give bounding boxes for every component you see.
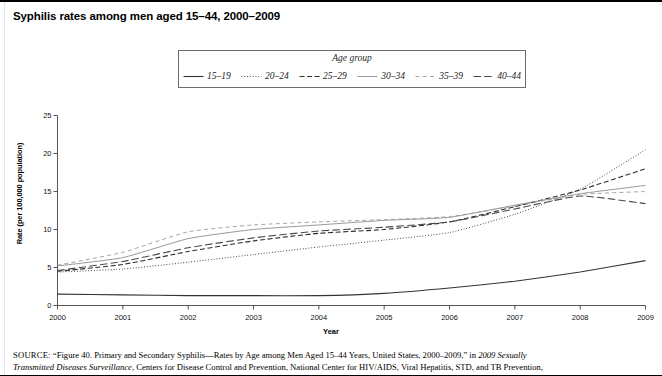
x-tick-label: 2004 — [299, 313, 339, 322]
series-line-40-44 — [58, 196, 646, 270]
legend-item-label: 15–19 — [207, 71, 231, 81]
legend-line-swatch — [299, 73, 320, 80]
source-prefix: SOURCE: — [13, 350, 51, 360]
x-tick-label: 2006 — [430, 313, 470, 322]
legend-line-swatch — [415, 73, 436, 80]
x-tick-label: 2003 — [234, 313, 274, 322]
source-line2-b: , Centers for Disease Control and Preven… — [132, 362, 543, 372]
x-axis-ticks — [58, 306, 646, 310]
legend-title: Age group — [179, 53, 525, 63]
y-tick-label: 20 — [30, 149, 52, 158]
legend-item-15-19: 15–19 — [183, 71, 231, 81]
legend-item-label: 20–24 — [265, 71, 289, 81]
x-tick-label: 2009 — [626, 313, 662, 322]
legend-line-swatch — [473, 73, 494, 80]
x-tick-label: 2008 — [560, 313, 600, 322]
chart-svg — [0, 97, 662, 342]
chart-legend: Age group 15–1920–2425–2930–3435–3940–44 — [178, 50, 526, 88]
series-line-35-39 — [58, 192, 646, 266]
y-tick-label: 10 — [30, 225, 52, 234]
page-title: Syphilis rates among men aged 15–44, 200… — [13, 10, 280, 22]
legend-line-swatch — [357, 73, 378, 80]
data-series-group — [58, 150, 646, 296]
legend-item-35-39: 35–39 — [415, 71, 463, 81]
x-tick-label: 2005 — [364, 313, 404, 322]
y-axis-ticks — [54, 116, 58, 306]
x-tick-label: 2001 — [103, 313, 143, 322]
legend-line-swatch — [183, 73, 204, 80]
y-tick-label: 5 — [30, 263, 52, 272]
source-line1-italic: 2009 Sexually — [478, 350, 526, 360]
series-line-25-29 — [58, 169, 646, 272]
legend-item-label: 25–29 — [323, 71, 347, 81]
legend-items: 15–1920–2425–2930–3435–3940–44 — [183, 71, 521, 81]
source-note: SOURCE: “Figure 40. Primary and Secondar… — [13, 350, 653, 373]
legend-item-25-29: 25–29 — [299, 71, 347, 81]
legend-item-label: 30–34 — [381, 71, 405, 81]
series-line-20-24 — [58, 150, 646, 272]
legend-item-label: 40–44 — [497, 71, 521, 81]
legend-item-30-34: 30–34 — [357, 71, 405, 81]
x-tick-label: 2002 — [168, 313, 208, 322]
figure-page: Syphilis rates among men aged 15–44, 200… — [0, 0, 662, 376]
x-tick-label: 2007 — [495, 313, 535, 322]
y-tick-label: 15 — [30, 187, 52, 196]
legend-item-label: 35–39 — [439, 71, 463, 81]
series-line-15-19 — [58, 261, 646, 296]
legend-item-20-24: 20–24 — [241, 71, 289, 81]
plot-area: Rate (per 100,000 population) Year 05101… — [0, 97, 662, 342]
x-tick-label: 2000 — [38, 313, 78, 322]
legend-line-swatch — [241, 73, 262, 80]
axes — [58, 116, 646, 306]
source-line1-a: “Figure 40. Primary and Secondary Syphil… — [51, 350, 479, 360]
series-line-30-34 — [58, 185, 646, 266]
source-line2-italic: Transmitted Diseases Surveillance — [13, 362, 132, 372]
legend-item-40-44: 40–44 — [473, 71, 521, 81]
y-tick-label: 0 — [30, 301, 52, 310]
y-tick-label: 25 — [30, 111, 52, 120]
